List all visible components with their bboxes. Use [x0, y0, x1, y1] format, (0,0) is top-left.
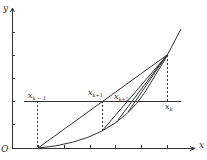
- secant-line-3: [118, 55, 167, 120]
- secant-line-2: [102, 55, 167, 131]
- label-xk-plus-2: xk+2: [114, 93, 129, 102]
- label-xk-plus-1: xk+1: [88, 89, 103, 98]
- secant-line-4: [128, 55, 167, 112]
- origin-label: O: [1, 145, 8, 154]
- diagram-canvas: [0, 0, 207, 160]
- secant-method-diagram: y x O xk − 1 xk+1 xk+2 xk: [0, 0, 207, 160]
- function-curve: [38, 29, 181, 148]
- y-axis-label: y: [3, 4, 8, 13]
- label-xk-minus-1: xk − 1: [28, 92, 46, 101]
- label-xk: xk: [165, 103, 173, 112]
- x-axis-label: x: [199, 141, 204, 150]
